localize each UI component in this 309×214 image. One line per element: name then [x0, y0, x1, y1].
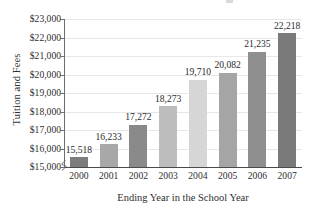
- x-axis-tick-label: 2002: [124, 171, 154, 181]
- x-axis-tick-label: 2006: [243, 171, 273, 181]
- x-axis-tick-label: 2003: [153, 171, 183, 181]
- y-axis-tick-label: $22,000: [30, 33, 61, 43]
- bar-value-label: 16,233: [85, 132, 133, 142]
- bar-value-label: 15,518: [55, 145, 103, 155]
- x-axis-tick-label: 2000: [64, 171, 94, 181]
- x-axis-line: [64, 167, 302, 168]
- bar: [278, 33, 296, 167]
- y-axis-tick-label: $19,000: [30, 88, 61, 98]
- bar-chart: Tuition and Fees $15,000$16,000$17,000$1…: [0, 0, 309, 214]
- bar: [129, 125, 147, 167]
- bar: [248, 52, 266, 167]
- bar: [189, 80, 207, 167]
- bar-value-label: 21,235: [234, 39, 282, 49]
- y-axis-tick-labels: $15,000$16,000$17,000$18,000$19,000$20,0…: [0, 0, 64, 214]
- y-axis-tick-label: $20,000: [30, 70, 61, 80]
- bars-container: 15,51816,23317,27218,27319,71020,08221,2…: [64, 19, 302, 167]
- y-axis-tick-label: $17,000: [30, 125, 61, 135]
- bar: [100, 144, 118, 167]
- bar-value-label: 20,082: [204, 60, 252, 70]
- bar: [70, 157, 88, 167]
- x-axis-tick-label: 2004: [183, 171, 213, 181]
- x-axis-tick-label: 2007: [272, 171, 302, 181]
- x-axis-tick-label: 2001: [94, 171, 124, 181]
- cropped-title-artifact: [226, 0, 233, 3]
- x-axis-title: Ending Year in the School Year: [64, 192, 302, 203]
- y-axis-tick-label: $15,000: [30, 162, 61, 172]
- bar-value-label: 18,273: [144, 94, 192, 104]
- y-axis-tick-label: $23,000: [30, 14, 61, 24]
- bar-value-label: 22,218: [263, 21, 309, 31]
- y-axis-tick-label: $18,000: [30, 107, 61, 117]
- plot-area: 15,51816,23317,27218,27319,71020,08221,2…: [64, 19, 302, 167]
- x-axis-tick-label: 2005: [213, 171, 243, 181]
- axis-break-icon: [60, 160, 69, 171]
- bar-value-label: 17,272: [115, 112, 163, 122]
- bar: [159, 106, 177, 167]
- bar: [219, 73, 237, 167]
- x-axis-tick-labels: 20002001200220032004200520062007: [64, 171, 302, 185]
- y-axis-tick-label: $21,000: [30, 51, 61, 61]
